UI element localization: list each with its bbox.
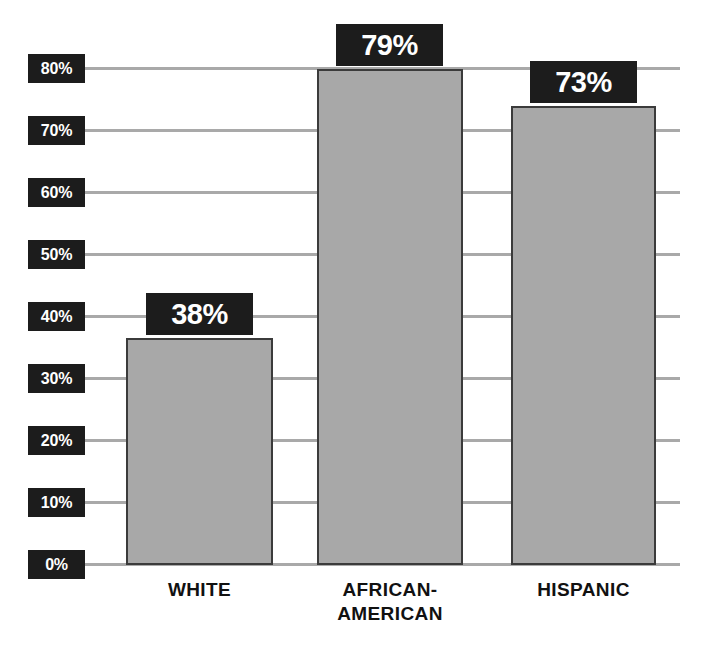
y-axis-tick-0: 0% [28, 550, 85, 579]
value-label-white: 38% [146, 293, 253, 335]
y-axis-tick-10: 10% [28, 488, 85, 517]
y-axis-tick-50: 50% [28, 240, 85, 269]
y-axis-tick-30: 30% [28, 364, 85, 393]
y-axis-tick-40: 40% [28, 302, 85, 331]
bar-hispanic [511, 106, 656, 565]
bar-white [126, 338, 273, 565]
category-label-hispanic: HISPANIC [511, 578, 656, 602]
bar-chart: 80% 70% 60% 50% 40% 30% 20% 10% 0% 38% 7… [0, 0, 703, 645]
value-label-hispanic: 73% [530, 61, 637, 103]
category-label-african-american: AFRICAN- AMERICAN [310, 578, 470, 626]
y-axis-tick-20: 20% [28, 426, 85, 455]
y-axis-tick-70: 70% [28, 116, 85, 145]
category-label-white: WHITE [126, 578, 273, 602]
bar-african-american [317, 69, 463, 565]
y-axis-tick-80: 80% [28, 54, 85, 83]
value-label-african-american: 79% [336, 24, 443, 66]
y-axis-tick-60: 60% [28, 178, 85, 207]
